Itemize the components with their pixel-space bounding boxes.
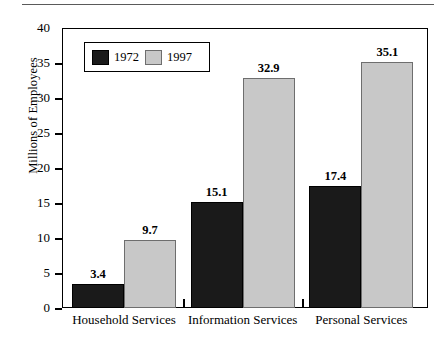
legend-item-1997: 1997 — [145, 50, 192, 65]
y-axis-tick-mark — [55, 98, 62, 100]
y-axis-tick-label: 5 — [10, 264, 50, 281]
bar-value-label: 3.4 — [72, 267, 124, 282]
y-axis-tick-mark — [55, 168, 62, 170]
bar-1997-personal-services — [361, 62, 413, 308]
y-axis-tick-mark — [55, 238, 62, 240]
y-axis-tick-label: 40 — [10, 19, 50, 36]
legend-label-1997: 1997 — [167, 50, 192, 64]
y-axis-tick-label: 0 — [10, 299, 50, 316]
x-axis-category-label: Personal Services — [289, 312, 433, 328]
y-axis-tick-mark — [55, 133, 62, 135]
x-axis-group-separator-tick — [302, 299, 304, 308]
chart-legend: 1972 1997 — [84, 42, 210, 72]
y-axis-tick-label: 30 — [10, 89, 50, 106]
y-axis-tick-mark — [55, 203, 62, 205]
y-axis-tick-label: 15 — [10, 194, 50, 211]
bar-value-label: 17.4 — [309, 169, 361, 184]
bar-value-label: 32.9 — [243, 61, 295, 76]
legend-label-1972: 1972 — [114, 50, 139, 64]
y-axis-tick-label: 20 — [10, 159, 50, 176]
y-axis-tick-mark — [55, 273, 62, 275]
legend-item-1972: 1972 — [92, 50, 139, 65]
y-axis-tick-label: 25 — [10, 124, 50, 141]
legend-swatch-1972 — [92, 50, 109, 65]
bar-1997-information-services — [243, 78, 295, 308]
legend-swatch-1997 — [145, 50, 162, 65]
y-axis-tick-label: 10 — [10, 229, 50, 246]
grouped-bar-chart: Millions of Employees 0510152025303540 3… — [0, 0, 448, 344]
bar-value-label: 15.1 — [191, 185, 243, 200]
bar-1997-household-services — [124, 240, 176, 308]
bar-value-label: 35.1 — [361, 45, 413, 60]
x-axis-group-separator-tick — [183, 299, 185, 308]
bar-1972-household-services — [72, 284, 124, 308]
y-axis-tick-mark — [55, 308, 62, 310]
bar-group: 17.435.1 — [309, 28, 413, 308]
y-axis-tick-label: 35 — [10, 54, 50, 71]
bar-value-label: 9.7 — [124, 223, 176, 238]
bar-1972-information-services — [191, 202, 243, 308]
bar-1972-personal-services — [309, 186, 361, 308]
y-axis-tick-mark — [55, 63, 62, 65]
